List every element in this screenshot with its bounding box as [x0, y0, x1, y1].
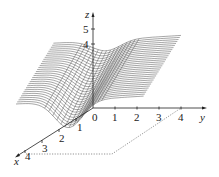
y-tick-2: 2 [134, 112, 140, 123]
y-tick-1: 1 [112, 112, 118, 123]
x-axis-label: x [14, 156, 19, 167]
surface-plot [0, 0, 219, 177]
surface-line [52, 37, 180, 53]
y-axis-label: y [200, 112, 205, 123]
x-tick-4: 4 [25, 151, 31, 162]
axes [15, 12, 207, 158]
surface-line [25, 82, 153, 110]
y-tick-4: 4 [178, 112, 184, 123]
y-tick-3: 3 [156, 112, 162, 123]
z-axis-label: z [85, 9, 89, 20]
z-axis-arrow-icon [92, 12, 95, 17]
z-tick-5: 5 [83, 24, 89, 35]
y-axis-arrow-icon [202, 107, 207, 110]
x-tick-1: 1 [77, 122, 83, 133]
x-tick-3: 3 [42, 143, 48, 154]
z-tick-4: 4 [83, 39, 89, 50]
surface-cross-line [45, 44, 82, 108]
surface-cross-line [90, 42, 127, 108]
x-tick-2: 2 [59, 133, 65, 144]
y-tick-0: 0 [92, 112, 98, 123]
